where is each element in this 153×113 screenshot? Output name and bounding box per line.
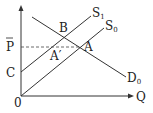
s1-label: S1 xyxy=(92,6,105,21)
point-a-label: A xyxy=(83,40,93,54)
x-axis-label: Q xyxy=(136,90,146,104)
s0-label: S0 xyxy=(105,19,118,34)
y-axis-arrow-icon xyxy=(19,5,24,11)
point-a-prime-label: A′ xyxy=(49,49,62,63)
d0-label: D0 xyxy=(127,71,141,86)
supply-demand-diagram: P C 0 Q B A A′ S1 S0 D0 xyxy=(0,0,153,113)
origin-label: 0 xyxy=(14,96,22,110)
supply-curve-s1 xyxy=(21,16,91,72)
price-label: P xyxy=(6,40,14,54)
point-b-label: B xyxy=(59,21,68,35)
x-axis-arrow-icon xyxy=(128,94,134,99)
point-c-label: C xyxy=(6,66,15,80)
